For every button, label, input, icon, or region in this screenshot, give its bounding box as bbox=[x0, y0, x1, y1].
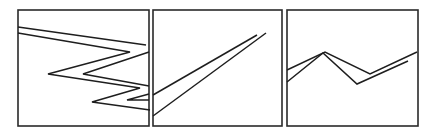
panel-3 bbox=[287, 10, 418, 126]
three-panel-line-diagram bbox=[0, 0, 439, 134]
diagram-canvas bbox=[0, 0, 439, 134]
panel-3-frame bbox=[287, 10, 418, 126]
panel-1-frame bbox=[18, 10, 149, 126]
panel-2 bbox=[153, 10, 282, 126]
panel-3-path-2 bbox=[287, 53, 408, 84]
panel-3-path-1 bbox=[287, 52, 417, 74]
panel-2-path-1 bbox=[153, 35, 257, 95]
panel-1-path-3 bbox=[83, 52, 149, 100]
panel-1 bbox=[18, 10, 150, 126]
panel-2-path-2 bbox=[153, 33, 266, 116]
